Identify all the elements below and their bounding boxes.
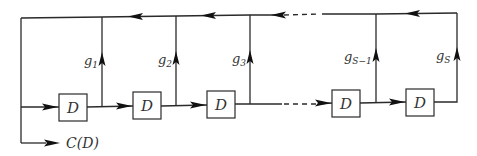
delay-block-4: D <box>332 90 360 117</box>
svg-text:D: D <box>339 95 352 113</box>
tap-label-g2: g2 <box>158 52 172 69</box>
tap-label-g1: g1 <box>84 53 98 70</box>
delay-block-5: D <box>406 89 434 116</box>
block-diagram: D D D D D g1 g2 g3 gS−1 gS C(D) <box>0 0 477 156</box>
arrow-right-icon <box>315 100 331 107</box>
svg-text:D: D <box>140 97 153 115</box>
svg-text:D: D <box>66 99 79 117</box>
output-label: C(D) <box>66 135 99 151</box>
delay-block-3: D <box>207 91 235 118</box>
delay-block-2: D <box>133 92 161 119</box>
feedback-bus <box>21 13 457 18</box>
svg-text:D: D <box>214 96 227 114</box>
tap-label-gs-1: gS−1 <box>344 49 372 66</box>
tap-label-g3: g3 <box>232 51 246 68</box>
tap-label-gs: gS <box>436 48 451 65</box>
arrow-right-icon <box>44 140 60 147</box>
arrow-left-icon <box>271 12 286 19</box>
svg-text:D: D <box>413 94 426 112</box>
delay-block-1: D <box>59 94 87 121</box>
